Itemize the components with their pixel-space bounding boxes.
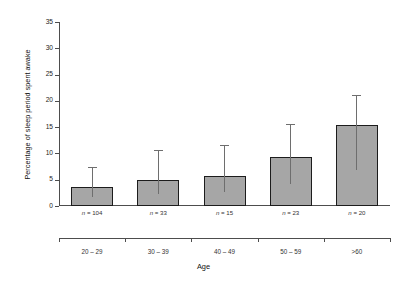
y-tick-mark (55, 48, 59, 49)
y-tick-label: 20 (46, 96, 53, 103)
category-tick (390, 238, 391, 242)
sample-size-label: n = 23 (282, 209, 299, 216)
y-tick-label: 35 (46, 18, 53, 25)
error-bar-cap (220, 145, 229, 146)
y-tick-label: 25 (46, 70, 53, 77)
bar-group: n = 15 (204, 22, 246, 206)
y-tick-mark (55, 75, 59, 76)
category-label: 40 – 49 (214, 248, 235, 255)
sample-size-label: n = 15 (216, 209, 233, 216)
category-label: >60 (352, 248, 363, 255)
y-tick-mark (55, 22, 59, 23)
bar-group: n = 23 (270, 22, 312, 206)
plot-area: 05101520253035 n = 104n = 33n = 15n = 23… (59, 22, 390, 206)
x-axis-title: Age (0, 262, 407, 271)
error-bar-stem (290, 125, 291, 184)
category-tick (258, 238, 259, 242)
y-tick-mark (55, 180, 59, 181)
y-tick-label: 5 (49, 175, 53, 182)
error-bar-cap (286, 124, 295, 125)
error-bar-cap (154, 150, 163, 151)
y-tick-label: 15 (46, 123, 53, 130)
category-label: 50 – 59 (280, 248, 301, 255)
y-tick-label: 10 (46, 149, 53, 156)
bar-group: n = 104 (71, 22, 113, 206)
error-bar-stem (224, 146, 225, 193)
y-tick-label: 0 (49, 202, 53, 209)
sample-size-label: n = 104 (82, 209, 103, 216)
category-label: 30 – 39 (148, 248, 169, 255)
category-label: 20 – 29 (82, 248, 103, 255)
y-tick-mark (55, 206, 59, 207)
category-tick (191, 238, 192, 242)
error-bar-cap (88, 167, 97, 168)
category-tick (125, 238, 126, 242)
y-tick-mark (55, 127, 59, 128)
chart-figure: Percentage of sleep period spent awake 0… (0, 0, 407, 284)
y-axis-title: Percentage of sleep period spent awake (23, 20, 32, 210)
bar-group: n = 20 (336, 22, 378, 206)
y-tick-mark (55, 101, 59, 102)
bar-group: n = 33 (137, 22, 179, 206)
y-tick-label: 30 (46, 44, 53, 51)
y-tick-mark (55, 153, 59, 154)
category-tick (59, 238, 60, 242)
error-bar-stem (92, 168, 93, 197)
error-bar-stem (356, 96, 357, 170)
category-axis-line (59, 238, 390, 239)
category-tick (324, 238, 325, 242)
error-bar-stem (158, 151, 159, 194)
sample-size-label: n = 33 (150, 209, 167, 216)
sample-size-label: n = 20 (348, 209, 365, 216)
error-bar-cap (352, 95, 361, 96)
y-axis-line (59, 22, 60, 206)
